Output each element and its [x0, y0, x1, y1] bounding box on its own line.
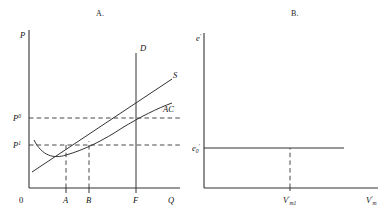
panel-a-price-p0-label: P0 [12, 113, 21, 123]
panel-a-x-axis-label: Q [168, 195, 174, 205]
panel-a-xtick-label-f: F [132, 195, 139, 205]
figure-svg: P Q 0 P0 P1 A B F D S AC [0, 0, 389, 218]
panel-a-price-p1-label: P1 [12, 140, 21, 150]
panel-b-effort-level-label: e0′ [192, 143, 201, 155]
panel-a-supply-curve [32, 79, 172, 172]
panel-b-x-axis-label: V′m [366, 195, 376, 206]
panel-a-average-cost-curve [34, 103, 172, 157]
panel-a-origin-label: 0 [19, 195, 23, 205]
panel-b: e′ e0′ V′m1 V′m [192, 33, 378, 206]
panel-b-xtick-label-vm1: V′m1 [283, 195, 296, 206]
figure-container: A. B. P Q 0 [0, 0, 389, 218]
panel-a-demand-label: D [139, 43, 147, 53]
panel-a-xtick-label-b: B [86, 195, 91, 205]
panel-a-supply-label: S [173, 70, 178, 80]
panel-b-y-axis-label: e′ [196, 33, 202, 43]
panel-a-y-axis-label: P [19, 30, 25, 40]
panel-a-xtick-label-a: A [62, 195, 69, 205]
panel-a-average-cost-label: AC [162, 104, 174, 114]
panel-a: P Q 0 P0 P1 A B F D S AC [12, 30, 180, 205]
